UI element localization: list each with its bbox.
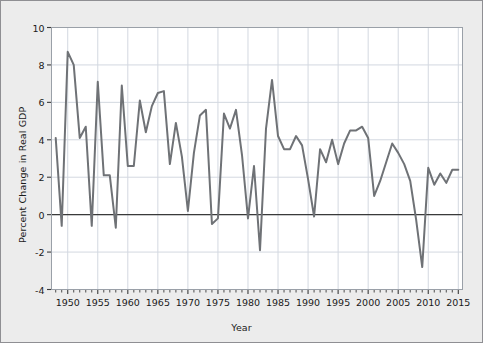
x-tick-label: 1970 <box>176 297 200 308</box>
y-tick-label: 8 <box>38 59 44 70</box>
x-tick-label: 1965 <box>146 297 170 308</box>
x-axis-title: Year <box>0 322 483 333</box>
x-tick-label: 2015 <box>446 297 470 308</box>
y-tick-label: 0 <box>38 209 44 220</box>
x-tick-label: 2010 <box>416 297 440 308</box>
x-tick-label: 1990 <box>296 297 320 308</box>
x-tick-label: 1985 <box>266 297 290 308</box>
y-axis-title: Percent Change in Real GDP <box>17 107 28 243</box>
x-tick-label: 2005 <box>386 297 410 308</box>
y-tick-label: -4 <box>35 284 44 295</box>
x-tick-label: 1980 <box>236 297 260 308</box>
chart-figure: -4-20246810 1950195519601965197019751980… <box>0 0 483 343</box>
y-tick-label: 2 <box>38 172 44 183</box>
y-tick-label: 10 <box>32 22 44 33</box>
x-tick-label: 1975 <box>206 297 230 308</box>
x-tick-label: 1950 <box>56 297 80 308</box>
x-tick-label: 1960 <box>116 297 140 308</box>
x-tick-label: 2000 <box>356 297 380 308</box>
x-tick-label: 1955 <box>86 297 110 308</box>
y-tick-label: -2 <box>35 247 44 258</box>
x-tick-label: 1995 <box>326 297 350 308</box>
gdp-line-chart <box>0 0 483 343</box>
y-tick-label: 6 <box>38 97 44 108</box>
y-tick-label: 4 <box>38 134 44 145</box>
